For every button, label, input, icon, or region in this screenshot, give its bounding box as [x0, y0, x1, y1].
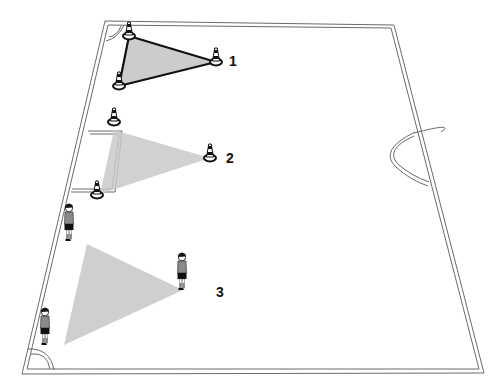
cone-icon — [210, 48, 222, 66]
zone-3-label: 3 — [216, 284, 224, 300]
player-icon — [178, 253, 187, 290]
zone-2-label: 2 — [226, 150, 234, 166]
zone-1-area — [119, 36, 216, 86]
zone-3-area — [64, 244, 183, 345]
zone-2-area — [100, 130, 210, 194]
cone-icon — [204, 144, 216, 162]
center-circle-arc — [390, 127, 445, 186]
player-icon — [41, 308, 50, 345]
soccer-field-diagram — [0, 0, 500, 390]
cone-icon — [108, 108, 120, 126]
cone-icon — [123, 22, 135, 40]
zone-1-label: 1 — [229, 53, 237, 69]
player-icon — [65, 204, 74, 241]
